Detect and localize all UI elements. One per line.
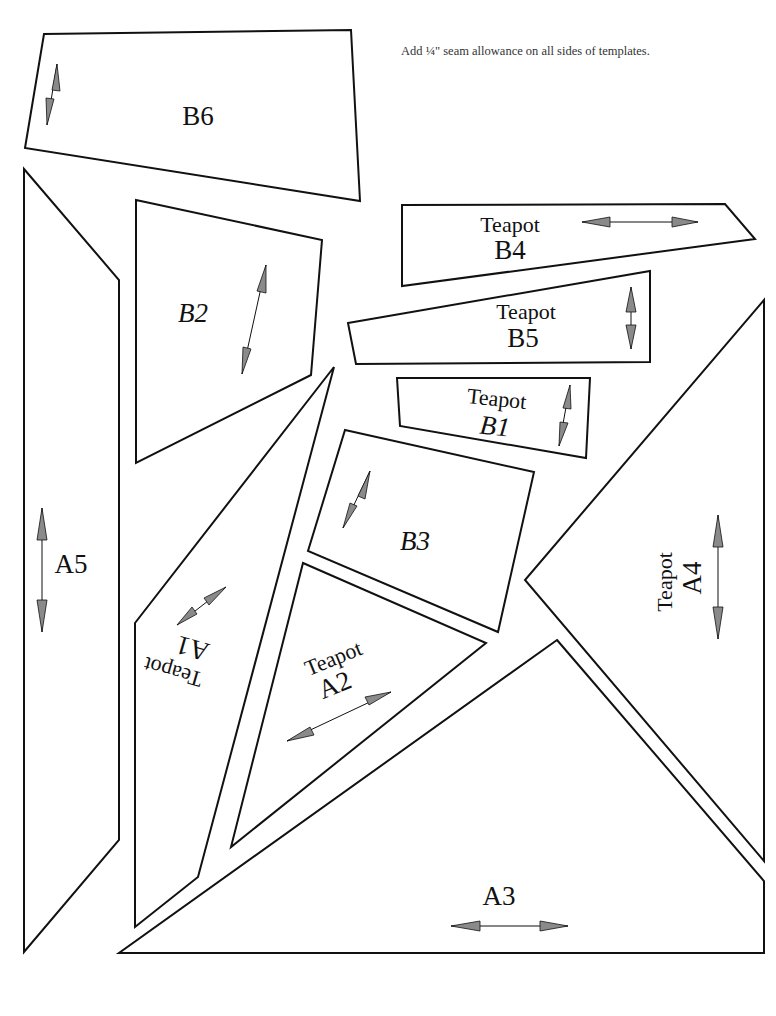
template-piece-b6: B6 [25, 30, 360, 201]
piece-label-b5-prefix: Teapot [496, 299, 556, 324]
template-piece-b5: Teapot B5 [348, 271, 650, 364]
template-sheet: B6 A5 B2 Teapot B4 [0, 0, 776, 1016]
piece-label-b4-prefix: Teapot [480, 212, 540, 237]
piece-label-b6: B6 [182, 101, 214, 131]
piece-label-b4: B4 [494, 235, 526, 265]
piece-label-b1: B1 [478, 410, 511, 443]
piece-label-b2: B2 [178, 298, 208, 328]
template-piece-b1: Teapot B1 [397, 378, 590, 458]
piece-label-a4: A4 [677, 561, 707, 594]
piece-label-a5: A5 [55, 549, 88, 579]
template-piece-a5: A5 [24, 169, 119, 952]
piece-label-a4-prefix: Teapot [652, 552, 677, 612]
piece-label-a3: A3 [483, 881, 516, 911]
piece-label-b5: B5 [507, 323, 539, 353]
piece-label-b3: B3 [400, 526, 430, 556]
piece-outline [402, 204, 755, 286]
template-piece-b4: Teapot B4 [402, 204, 755, 286]
